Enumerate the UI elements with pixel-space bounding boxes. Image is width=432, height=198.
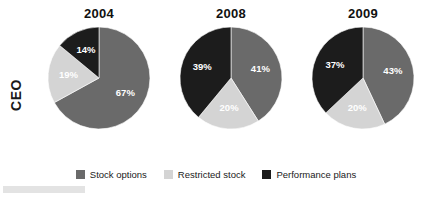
pie-panel-2004: 2004 67%19%14% (34, 6, 164, 154)
pie-svg: 67%19%14% (47, 26, 151, 130)
legend-label: Restricted stock (178, 169, 246, 180)
pie-panel-2008: 2008 41%20%39% (166, 6, 296, 154)
pie-chart-figure: CEO 2004 67%19%14% 2008 41%20%39% 2009 4… (0, 0, 432, 198)
pie-slice-label: 14% (76, 44, 96, 55)
scan-artifact-bar (3, 186, 85, 193)
legend-swatch-restricted_stock (164, 170, 173, 179)
row-label-text: CEO (8, 79, 24, 111)
legend-swatch-performance_plans (262, 170, 271, 179)
pie-slice-label: 19% (59, 69, 79, 80)
legend-swatch-stock_options (76, 170, 85, 179)
pie-svg: 41%20%39% (179, 26, 283, 130)
pie-slice-label: 20% (220, 102, 240, 113)
pie-svg: 43%20%37% (311, 26, 415, 130)
pie-chart-2009: 43%20%37% (311, 26, 415, 130)
legend-item-restricted_stock: Restricted stock (164, 169, 246, 180)
pie-slice-label: 20% (348, 102, 368, 113)
row-label-ceo: CEO (2, 60, 30, 130)
pie-panel-title: 2008 (166, 6, 296, 21)
legend-item-performance_plans: Performance plans (262, 169, 356, 180)
pie-panel-2009: 2009 43%20%37% (298, 6, 428, 154)
pie-chart-2008: 41%20%39% (179, 26, 283, 130)
pie-slice-label: 43% (383, 65, 403, 76)
legend-item-stock_options: Stock options (76, 169, 147, 180)
pie-panel-title: 2009 (298, 6, 428, 21)
pie-slice-label: 37% (325, 59, 345, 70)
pie-panel-title: 2004 (34, 6, 164, 21)
pie-slice-label: 41% (251, 63, 271, 74)
pie-slice-label: 39% (193, 61, 213, 72)
legend-label: Performance plans (276, 169, 356, 180)
legend-label: Stock options (90, 169, 147, 180)
pie-slice-label: 67% (116, 87, 136, 98)
pie-chart-2004: 67%19%14% (47, 26, 151, 130)
chart-legend: Stock optionsRestricted stockPerformance… (0, 164, 432, 184)
